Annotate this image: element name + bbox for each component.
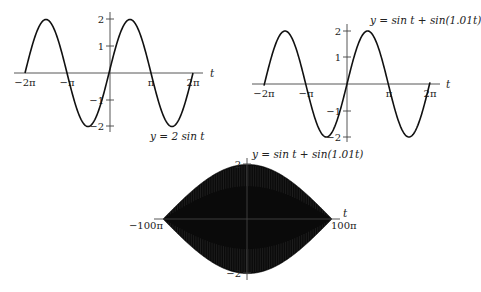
x-tick-label: 2π (187, 77, 200, 88)
equation-label: y = 2 sin t (149, 130, 205, 142)
y-tick-label: 2 (98, 14, 104, 25)
y-tick-label: 2 (235, 159, 241, 170)
chart-2sin: 2 1 −1 −2 −2π −π π 2π t y = 2 sin t (14, 12, 215, 142)
x-tick-label: −π (60, 77, 75, 88)
y-tick-label: 1 (335, 52, 341, 63)
chart-sum-beats: 2 −2 −100π 100π t y = sin t + sin(1.01t) (129, 148, 363, 280)
y-tick-label: 2 (335, 26, 341, 37)
y-tick-label: 1 (98, 41, 104, 52)
y-tick-label: −2 (226, 268, 241, 279)
y-tick-label: −2 (89, 121, 104, 132)
x-axis-label: t (446, 78, 451, 90)
x-tick-label: −2π (14, 77, 36, 88)
equation-label: y = sin t + sin(1.01t) (369, 14, 481, 26)
y-tick-label: −2 (326, 132, 341, 143)
x-tick-label: −2π (253, 88, 275, 99)
x-tick-label: −100π (129, 220, 163, 231)
x-axis-label: t (343, 207, 348, 219)
figure-canvas: 2 1 −1 −2 −2π −π π 2π t y = 2 sin t 2 1 … (0, 0, 481, 292)
chart-sum-small: 2 1 −1 −2 −2π −π π 2π t y = sin t + sin(… (252, 14, 481, 143)
x-tick-label: 100π (331, 220, 357, 231)
x-axis-label: t (210, 67, 215, 79)
equation-label: y = sin t + sin(1.01t) (251, 148, 363, 160)
x-tick-label: −π (299, 88, 314, 99)
